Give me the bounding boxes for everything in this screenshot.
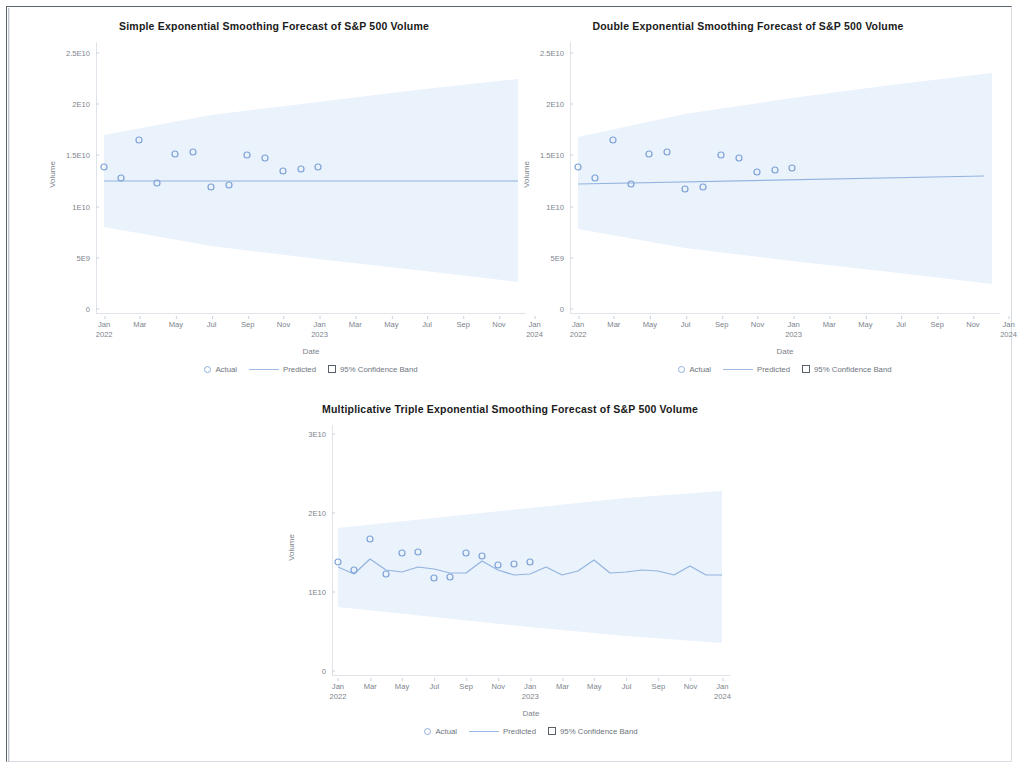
- y-tick: 2.5E10: [66, 48, 96, 57]
- y-tick: 2E10: [308, 509, 332, 518]
- x-tick: Mar: [133, 320, 146, 330]
- x-tick: Jul: [622, 682, 632, 692]
- hollow-circle-icon: [424, 728, 431, 735]
- y-tick: 1.5E10: [66, 151, 96, 160]
- y-tick: 0: [86, 305, 96, 314]
- chart-legend: Actual Predicted 95% Confidence Band: [322, 724, 740, 738]
- y-tick: 2E10: [72, 100, 96, 109]
- x-tick: Sep: [456, 320, 470, 330]
- x-tick: Nov: [966, 320, 980, 330]
- legend-item-predicted: Predicted: [723, 365, 790, 374]
- x-tick: Jul: [422, 320, 432, 330]
- chart-legend: Actual Predicted 95% Confidence Band: [96, 362, 526, 376]
- x-tick: May: [587, 682, 601, 692]
- y-axis-line: [332, 425, 333, 676]
- legend-item-confidence-band: 95% Confidence Band: [548, 727, 638, 736]
- x-tick: Jan2024: [714, 682, 731, 702]
- plot-canvas: [570, 42, 1000, 314]
- x-tick: Jan2024: [1000, 320, 1017, 340]
- x-tick: Mar: [556, 682, 569, 692]
- y-tick: 5E9: [76, 253, 96, 262]
- line-segment-icon: [723, 369, 753, 370]
- x-tick: Sep: [930, 320, 944, 330]
- x-tick: Nov: [492, 320, 506, 330]
- legend-label-predicted: Predicted: [503, 727, 536, 736]
- x-tick: Jul: [429, 682, 439, 692]
- y-axis-label: Volume: [48, 145, 57, 205]
- chart-legend: Actual Predicted 95% Confidence Band: [570, 362, 1000, 376]
- legend-item-actual: Actual: [424, 727, 457, 736]
- y-axis-line: [570, 42, 571, 314]
- x-tick: Nov: [492, 682, 506, 692]
- plot-area-wrapper: 2.5E10 2E10 1.5E10 1E10 5E9 0 Jan2022 Ma…: [570, 42, 1000, 314]
- legend-label-actual: Actual: [435, 727, 457, 736]
- plot-area-wrapper: 3E10 2E10 1E10 0 Jan2022 Mar May Jul Sep…: [332, 425, 730, 676]
- legend-label-band: 95% Confidence Band: [814, 365, 892, 374]
- chart-svg: [570, 42, 1000, 314]
- x-tick: Mar: [349, 320, 362, 330]
- x-tick: Nov: [684, 682, 698, 692]
- y-axis-line: [96, 42, 97, 314]
- y-tick: 3E10: [308, 430, 332, 439]
- x-axis-label: Date: [570, 347, 1000, 356]
- x-tick: Jan2022: [330, 682, 347, 702]
- chart-title: Double Exponential Smoothing Forecast of…: [508, 20, 988, 32]
- y-tick: 1E10: [546, 202, 570, 211]
- chart-simple-exponential-smoothing: Simple Exponential Smoothing Forecast of…: [34, 20, 514, 380]
- confidence-band-area: [578, 73, 992, 284]
- hollow-square-icon: [802, 365, 810, 373]
- line-segment-icon: [469, 731, 499, 732]
- legend-label-actual: Actual: [689, 365, 711, 374]
- legend-label-predicted: Predicted: [757, 365, 790, 374]
- y-tick: 1.5E10: [540, 151, 570, 160]
- plot-canvas: [96, 42, 526, 314]
- legend-item-predicted: Predicted: [469, 727, 536, 736]
- plot-canvas: [332, 425, 730, 676]
- x-tick: Nov: [751, 320, 765, 330]
- x-tick: Sep: [652, 682, 666, 692]
- y-tick: 2.5E10: [540, 48, 570, 57]
- x-tick: Jul: [896, 320, 906, 330]
- x-axis-line: [570, 313, 1000, 314]
- chart-double-exponential-smoothing: Double Exponential Smoothing Forecast of…: [508, 20, 988, 380]
- x-tick: May: [169, 320, 183, 330]
- x-tick: Nov: [277, 320, 291, 330]
- legend-item-actual: Actual: [204, 365, 237, 374]
- legend-label-band: 95% Confidence Band: [560, 727, 638, 736]
- legend-label-predicted: Predicted: [283, 365, 316, 374]
- chart-svg: [96, 42, 526, 314]
- chart-svg: [332, 425, 730, 676]
- x-tick: Sep: [715, 320, 729, 330]
- hollow-circle-icon: [678, 366, 685, 373]
- chart-multiplicative-triple-exponential-smoothing: Multiplicative Triple Exponential Smooth…: [270, 403, 750, 763]
- plot-area-wrapper: 2.5E10 2E10 1.5E10 1E10 5E9 0 Jan2022 Ma…: [96, 42, 526, 314]
- x-tick: Jul: [207, 320, 217, 330]
- x-tick: May: [643, 320, 657, 330]
- confidence-band-area: [338, 491, 722, 643]
- legend-item-confidence-band: 95% Confidence Band: [802, 365, 892, 374]
- x-tick: Jan2022: [570, 320, 587, 340]
- y-tick: 1E10: [72, 202, 96, 211]
- chart-title: Multiplicative Triple Exponential Smooth…: [270, 403, 750, 415]
- hollow-square-icon: [328, 365, 336, 373]
- x-tick: Sep: [459, 682, 473, 692]
- x-axis-label: Date: [332, 709, 730, 718]
- x-tick: Mar: [607, 320, 620, 330]
- x-tick: May: [395, 682, 409, 692]
- x-tick: Sep: [241, 320, 255, 330]
- legend-item-actual: Actual: [678, 365, 711, 374]
- x-axis-line: [332, 675, 730, 676]
- x-tick: Mar: [364, 682, 377, 692]
- x-tick: Jan2023: [785, 320, 802, 340]
- y-tick: 0: [560, 305, 570, 314]
- x-tick: Jan2022: [96, 320, 113, 340]
- y-tick: 5E9: [550, 253, 570, 262]
- y-axis-label: Volume: [522, 145, 531, 205]
- x-tick: Jul: [681, 320, 691, 330]
- y-tick: 1E10: [308, 587, 332, 596]
- x-tick: May: [384, 320, 398, 330]
- x-tick: May: [858, 320, 872, 330]
- y-tick: 2E10: [546, 100, 570, 109]
- hollow-circle-icon: [204, 366, 211, 373]
- y-tick: 0: [322, 666, 332, 675]
